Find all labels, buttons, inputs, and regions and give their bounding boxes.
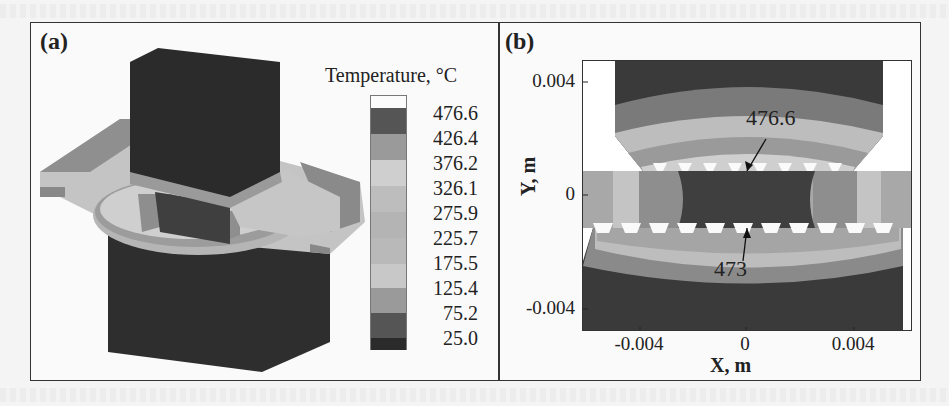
- colorbar-tick: 75.2: [418, 301, 478, 326]
- colorbar-band: [371, 264, 406, 288]
- background-text-bleed-bottom: [0, 388, 949, 402]
- y-tick-label: -0.004: [505, 297, 575, 319]
- contour-plot-area: [582, 60, 912, 331]
- colorbar-band: [371, 238, 406, 264]
- colorbar-tick: 476.6: [418, 101, 478, 126]
- annotation-interface-temp: 473: [714, 256, 747, 282]
- y-tick-label: 0.004: [505, 70, 575, 92]
- colorbar-tick-labels: 476.6 426.4 376.2 326.1 275.9 225.7 175.…: [418, 101, 478, 351]
- colorbar-tick: 426.4: [418, 126, 478, 151]
- colorbar-band: [371, 338, 406, 350]
- colorbar-band: [371, 108, 406, 134]
- y-tick-label: 0: [505, 183, 575, 205]
- colorbar-tick: 175.5: [418, 251, 478, 276]
- x-tick-label: 0.004: [813, 333, 893, 355]
- colorbar-tick: 225.7: [418, 226, 478, 251]
- contour-plot: [583, 61, 912, 331]
- colorbar-band: [371, 313, 406, 338]
- colorbar: [370, 95, 407, 350]
- colorbar-band: [371, 96, 406, 108]
- colorbar-band: [371, 212, 406, 238]
- colorbar-band: [371, 134, 406, 160]
- colorbar-band: [371, 186, 406, 212]
- colorbar-tick: 376.2: [418, 151, 478, 176]
- colorbar-title: Temperature, °C: [325, 64, 457, 87]
- panel-divider: [498, 22, 500, 381]
- x-axis-label: X, m: [710, 354, 751, 377]
- panel-a-3d-model: [30, 22, 370, 377]
- background-text-bleed-top: [0, 4, 949, 18]
- colorbar-tick: 125.4: [418, 276, 478, 301]
- colorbar-band: [371, 288, 406, 313]
- colorbar-tick: 25.0: [418, 326, 478, 351]
- annotation-max-temp: 476.6: [746, 105, 796, 131]
- colorbar-tick: 275.9: [418, 201, 478, 226]
- colorbar-band: [371, 160, 406, 186]
- panel-b-label: (b): [505, 28, 534, 55]
- x-tick-label: -0.004: [599, 333, 679, 355]
- x-tick-label: 0: [705, 333, 785, 355]
- colorbar-tick: 326.1: [418, 176, 478, 201]
- y-axis-label: Y, m: [517, 157, 540, 196]
